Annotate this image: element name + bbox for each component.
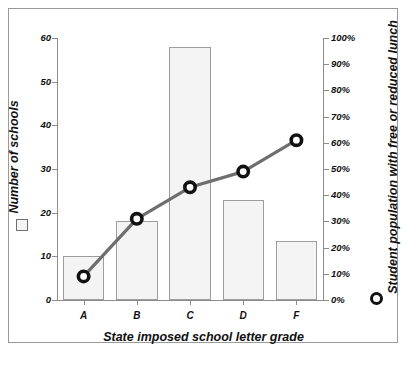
y-axis-right-tick-label: 70%	[331, 112, 365, 122]
bar	[223, 200, 265, 300]
x-axis-tick	[190, 300, 191, 305]
y-axis-right-tick-label: 0%	[331, 295, 365, 305]
x-axis-category-label: D	[223, 311, 263, 321]
y-axis-left-tick-label: 60	[21, 33, 51, 43]
y-axis-left-tick	[52, 256, 57, 257]
chart-figure: Number of schools Student population wit…	[0, 0, 407, 369]
y-axis-left-tick-label: 10	[21, 251, 51, 261]
y-axis-right-tick-label: 100%	[331, 33, 365, 43]
y-axis-right-tick	[324, 169, 329, 170]
y-axis-left-tick	[52, 213, 57, 214]
y-axis-right-tick-label: 80%	[331, 85, 365, 95]
y-axis-left-tick	[52, 125, 57, 126]
x-axis-tick	[137, 300, 138, 305]
y-axis-right-tick	[324, 195, 329, 196]
y-axis-left-tick	[52, 82, 57, 83]
x-axis-tick	[243, 300, 244, 305]
y-axis-left-tick-label: 40	[21, 120, 51, 130]
y-axis-right-tick	[324, 90, 329, 91]
y-axis-right-tick-label: 40%	[331, 190, 365, 200]
y-axis-left-tick	[52, 38, 57, 39]
y-axis-right-tick	[324, 64, 329, 65]
y-axis-right-title: Student population with free or reduced …	[386, 0, 400, 322]
y-axis-left-tick-label: 0	[21, 295, 51, 305]
y-axis-left-tick	[52, 300, 57, 301]
y-axis-right-tick-label: 60%	[331, 138, 365, 148]
x-axis-tick	[296, 300, 297, 305]
y-axis-right-tick-label: 20%	[331, 243, 365, 253]
x-axis-category-label: A	[64, 311, 104, 321]
y-axis-left-tick-label: 30	[21, 164, 51, 174]
y-axis-right-tick	[324, 117, 329, 118]
y-axis-right-tick	[324, 274, 329, 275]
bar	[276, 241, 318, 300]
y-axis-right-tick-label: 10%	[331, 269, 365, 279]
x-axis-category-label: B	[117, 311, 157, 321]
bar	[116, 221, 158, 300]
bar	[169, 47, 211, 300]
x-axis-category-label: C	[170, 311, 210, 321]
y-axis-right-tick	[324, 38, 329, 39]
y-axis-left-tick	[52, 169, 57, 170]
y-axis-right-tick	[324, 300, 329, 301]
y-axis-left-tick-label: 20	[21, 208, 51, 218]
y-axis-right-tick	[324, 143, 329, 144]
y-axis-left-line	[57, 38, 58, 301]
x-axis-category-label: F	[276, 311, 316, 321]
y-axis-right-tick-label: 90%	[331, 59, 365, 69]
y-axis-right-tick-label: 50%	[331, 164, 365, 174]
y-axis-right-tick	[324, 221, 329, 222]
y-axis-right-tick-label: 30%	[331, 216, 365, 226]
y-axis-left-tick-label: 50	[21, 77, 51, 87]
circle-marker-icon	[370, 292, 383, 305]
square-marker-icon	[16, 219, 28, 231]
x-axis-title: State imposed school letter grade	[0, 330, 407, 344]
bar	[63, 256, 105, 300]
x-axis-tick	[84, 300, 85, 305]
y-axis-right-tick	[324, 248, 329, 249]
